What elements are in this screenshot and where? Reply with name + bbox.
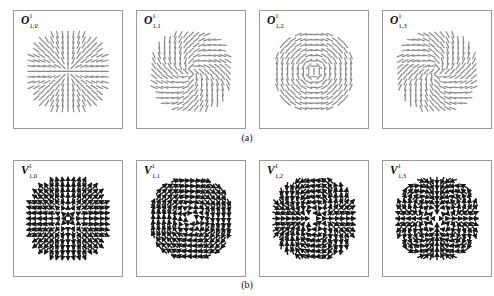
field-glyph [435,43,440,48]
field-glyph [39,91,44,95]
field-glyph [173,226,177,232]
field-glyph [210,237,216,243]
field-glyph [344,95,348,100]
field-glyph [179,222,181,226]
field-glyph [172,107,178,109]
field-glyph [83,32,86,38]
field-glyph [219,45,225,46]
field-glyph [290,43,295,47]
field-glyph [338,38,343,42]
panel-o-1-0: O11,0 [13,10,123,129]
field-glyph [177,233,183,237]
field-glyph [460,103,466,104]
field-glyph [153,53,155,59]
field-glyph [447,222,448,227]
field-glyph [306,200,311,204]
field-glyph [323,199,326,206]
field-glyph [210,69,215,74]
field-glyph [87,54,92,58]
field-glyph [429,229,434,230]
field-glyph [440,42,444,47]
field-glyph [76,80,81,85]
field-glyph [306,233,311,237]
field-glyph [435,90,440,95]
panel-superscript: 1 [29,12,32,19]
field-glyph [473,53,475,59]
field-glyph [430,106,434,111]
field-glyph [424,206,428,210]
field-glyph [302,211,305,215]
panel-subscript: 1,3 [399,22,407,29]
field-glyph [204,33,210,35]
field-glyph [285,43,290,48]
field-glyph [441,223,443,225]
field-glyph [194,100,198,105]
field-glyph [87,37,91,42]
field-glyph [97,49,102,53]
panel-subscript: 1,1 [152,172,160,179]
field-glyph [200,227,204,231]
field-glyph [317,200,322,204]
field-glyph [440,32,444,37]
field-glyph [184,37,188,42]
panel-superscript: 1 [398,162,401,169]
field-glyph [420,226,421,233]
field-glyph [328,53,333,58]
field-glyph [151,75,156,79]
field-glyph [92,43,97,48]
field-glyph [285,38,290,42]
panel-subscript: 1,0 [29,172,37,179]
field-glyph [435,59,440,64]
field-glyph [77,212,81,214]
field-glyph [76,59,81,64]
field-glyph [174,221,176,227]
field-glyph [174,210,176,216]
field-glyph [398,74,402,79]
field-glyph [431,212,433,214]
field-glyph [296,53,301,58]
field-glyph [97,189,103,194]
field-glyph [424,227,428,231]
field-glyph [333,48,338,53]
field-glyph [440,106,445,110]
field-glyph [189,101,194,106]
field-glyph [419,69,424,74]
field-glyph [285,96,290,101]
field-glyph [189,106,194,111]
field-glyph [333,90,338,95]
field-glyph [49,200,55,206]
field-glyph [323,222,326,226]
panel-superscript: 1 [398,12,401,19]
field-glyph [398,231,401,238]
field-glyph [466,69,471,74]
field-glyph [431,223,433,225]
field-glyph [72,223,74,225]
field-glyph [162,75,167,79]
field-glyph [45,100,49,105]
field-glyph [307,206,310,210]
field-glyph [225,64,230,68]
field-glyph [39,43,44,48]
field-glyph [184,207,188,209]
field-glyph [430,95,434,100]
field-glyph [97,195,104,199]
field-glyph [28,86,34,89]
field-glyph [185,223,187,225]
panel-label: V11,2 [267,164,286,178]
figure-container: O11,0O11,1O11,2O11,3 (a) V11,0V11,1V11,2… [0,0,494,296]
field-glyph [408,64,413,68]
field-glyph [455,250,463,252]
field-glyph [195,223,197,225]
field-glyph [62,227,64,231]
field-glyph [82,48,86,53]
field-glyph [60,64,65,69]
field-glyph [435,101,440,106]
field-glyph [189,59,194,64]
field-glyph [403,69,408,74]
field-glyph [45,43,49,48]
field-glyph [472,69,477,74]
field-glyph [92,48,97,52]
field-glyph [440,37,444,42]
field-glyph [398,199,401,206]
field-glyph [162,69,167,74]
